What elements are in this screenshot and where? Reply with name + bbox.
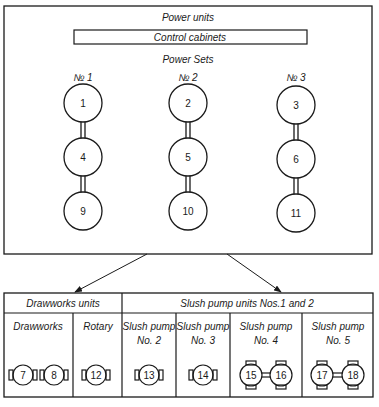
unit-11: 11 [291,208,302,219]
power-units-title: Power units [162,12,214,23]
col-pump2-no: No. 2 [137,335,161,346]
unit-14: 14 [197,370,209,381]
unit-4: 4 [80,152,86,163]
set-2-label: № 2 [178,72,198,83]
motor-symbols [9,361,364,389]
set-1-label: № 1 [73,72,92,83]
unit-3: 3 [293,100,299,111]
arrow-to-drawworks [75,254,147,292]
set-3-label: № 3 [286,72,306,83]
unit-1: 1 [80,98,86,109]
unit-15: 15 [245,370,257,381]
unit-13: 13 [143,370,155,381]
arrow-to-slush-pumps [227,254,281,292]
unit-8: 8 [51,370,57,381]
col-pump4-no: No. 4 [254,335,278,346]
col-pump2-label: Slush pump [123,321,176,332]
unit-2: 2 [185,98,191,109]
unit-6: 6 [293,154,299,165]
unit-7: 7 [20,370,26,381]
col-rotary-label: Rotary [83,321,113,332]
col-pump4-label: Slush pump [240,321,293,332]
control-cabinets-label: Control cabinets [154,32,226,43]
unit-16: 16 [275,370,287,381]
slush-pump-units-header: Slush pump units Nos.1 and 2 [180,298,314,309]
col-pump5-label: Slush pump [312,321,365,332]
unit-10: 10 [182,206,194,217]
col-drawworks-label: Drawworks [13,321,62,332]
col-pump5-no: No. 5 [326,335,350,346]
unit-12: 12 [90,370,102,381]
power-sets-title: Power Sets [162,54,213,65]
unit-17: 17 [316,370,328,381]
drawworks-units-header: Drawworks units [26,298,99,309]
unit-5: 5 [185,152,191,163]
col-pump3-no: No. 3 [191,335,215,346]
power-distribution-diagram: Power units Control cabinets Power Sets … [0,0,379,407]
col-pump3-label: Slush pump [177,321,230,332]
unit-18: 18 [347,370,359,381]
unit-9: 9 [80,206,86,217]
